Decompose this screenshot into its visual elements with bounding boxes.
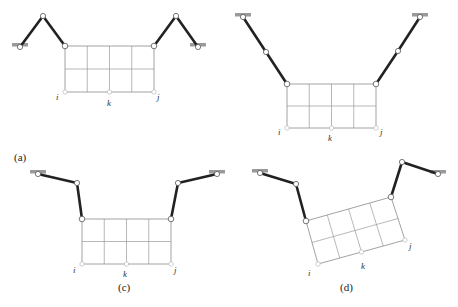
node-label-i: i — [278, 127, 281, 137]
hinge-node — [373, 81, 379, 87]
hinge-node — [195, 44, 200, 49]
link-bar — [296, 184, 306, 221]
node-label-k: k — [361, 261, 366, 271]
mesh-grid — [287, 84, 376, 128]
link-bar — [266, 52, 287, 84]
right-chain — [373, 13, 428, 87]
hinge-node — [395, 48, 400, 53]
link-bar — [391, 162, 402, 197]
link-bar — [398, 17, 420, 51]
link-bar — [176, 16, 198, 47]
link-bar — [171, 183, 178, 219]
left-chain — [12, 13, 68, 49]
node-i — [316, 262, 320, 266]
node-label-i: i — [56, 92, 59, 102]
left-chain — [235, 13, 290, 87]
left-chain — [30, 170, 85, 222]
node-label-j: j — [173, 265, 177, 275]
grid-line-horizontal — [312, 219, 398, 243]
node-i — [285, 126, 289, 130]
panel-d: ikj(d) — [252, 159, 446, 294]
node-j — [374, 126, 378, 130]
panel-label-d: (d) — [340, 281, 353, 294]
node-k — [124, 262, 128, 266]
hinge-node — [388, 194, 394, 200]
hinge-node — [74, 180, 79, 185]
link-bar — [38, 174, 77, 183]
hinge-node — [175, 180, 180, 185]
hinge-node — [35, 171, 40, 176]
mesh-suspension-diagram: ikj(a) ikj ikj(c) ikj(d) — [0, 0, 458, 307]
panel-b: ikj — [235, 13, 428, 143]
hinge-node — [417, 14, 422, 19]
hinge-node — [17, 44, 22, 49]
link-bar — [376, 51, 398, 84]
link-bar — [243, 17, 266, 52]
right-chain — [168, 170, 225, 222]
mesh-grid — [65, 46, 154, 92]
node-i — [80, 262, 84, 266]
panel-a: ikj(a) — [12, 13, 206, 164]
link-bar — [20, 16, 43, 47]
hinge-node — [399, 159, 404, 164]
mesh-grid — [82, 219, 171, 264]
node-label-j: j — [379, 127, 383, 137]
right-chain — [388, 159, 446, 199]
link-bar — [402, 162, 438, 174]
node-k — [359, 250, 363, 254]
hinge-node — [214, 171, 219, 176]
node-label-i: i — [73, 265, 76, 275]
hinge-node — [62, 43, 68, 49]
hinge-node — [435, 171, 440, 176]
hinge-node — [173, 13, 178, 18]
link-bar — [77, 183, 82, 219]
link-bar — [43, 16, 65, 46]
hinge-node — [284, 81, 290, 87]
hinge-node — [40, 13, 45, 18]
node-i — [63, 90, 67, 94]
node-label-j: j — [156, 92, 160, 102]
left-chain — [252, 169, 309, 224]
node-label-k: k — [328, 133, 333, 143]
node-j — [169, 262, 173, 266]
panel-label-c: (c) — [118, 281, 131, 294]
mesh-grid — [306, 197, 405, 264]
grid-line-horizontal — [306, 197, 391, 221]
node-k — [329, 126, 333, 130]
panel-label-a: (a) — [14, 151, 27, 164]
hinge-node — [263, 49, 268, 54]
node-label-k: k — [107, 98, 112, 108]
node-j — [152, 90, 156, 94]
hinge-node — [79, 216, 85, 222]
node-k — [107, 90, 111, 94]
hinge-node — [257, 170, 262, 175]
right-chain — [151, 13, 206, 49]
link-bar — [178, 174, 217, 183]
node-label-i: i — [308, 268, 311, 278]
hinge-node — [168, 216, 174, 222]
node-j — [403, 238, 407, 242]
hinge-node — [151, 43, 157, 49]
hinge-node — [293, 181, 298, 186]
link-bar — [154, 16, 176, 46]
node-label-k: k — [123, 269, 128, 279]
link-bar — [260, 173, 296, 184]
panel-c: ikj(c) — [30, 170, 225, 294]
hinge-node — [303, 218, 309, 224]
node-label-j: j — [408, 241, 412, 251]
hinge-node — [240, 14, 245, 19]
